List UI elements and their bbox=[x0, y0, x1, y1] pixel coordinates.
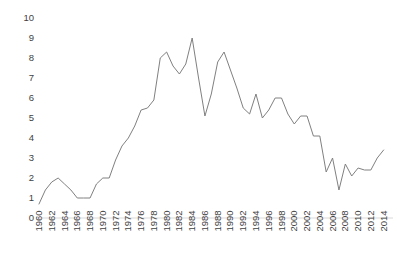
x-tick-label: 1992 bbox=[238, 210, 248, 231]
x-tick-label: 2004 bbox=[314, 210, 324, 231]
x-tick-label: 1978 bbox=[148, 210, 158, 231]
x-tick-label: 1982 bbox=[174, 210, 184, 231]
x-tick-label: 1980 bbox=[161, 210, 171, 231]
x-tick-label: 1966 bbox=[72, 210, 82, 231]
x-tick-label: 1960 bbox=[34, 210, 44, 231]
x-tick-label: 1990 bbox=[225, 210, 235, 231]
x-tick-label: 2008 bbox=[340, 210, 350, 231]
x-tick-label: 1994 bbox=[250, 210, 260, 231]
x-tick-label: 2000 bbox=[289, 210, 299, 231]
x-tick-label: 1968 bbox=[85, 210, 95, 231]
x-tick-label: 1972 bbox=[110, 210, 120, 231]
x-tick-label: 2012 bbox=[365, 210, 375, 231]
x-tick-label: 1974 bbox=[123, 210, 133, 231]
x-tick-label: 1996 bbox=[263, 210, 273, 231]
x-tick-label: 1962 bbox=[46, 210, 56, 231]
x-axis: 1960196219641966196819701972197419761978… bbox=[0, 0, 397, 268]
x-tick-label: 1998 bbox=[276, 210, 286, 231]
x-tick-label: 2002 bbox=[302, 210, 312, 231]
x-tick-label: 2006 bbox=[327, 210, 337, 231]
line-chart: 012345678910 196019621964196619681970197… bbox=[0, 0, 397, 268]
x-tick-label: 1964 bbox=[59, 210, 69, 231]
x-tick-label: 2014 bbox=[378, 210, 388, 231]
x-tick-label: 1984 bbox=[187, 210, 197, 231]
x-tick-label: 1970 bbox=[97, 210, 107, 231]
x-tick-label: 1986 bbox=[199, 210, 209, 231]
x-tick-label: 2010 bbox=[353, 210, 363, 231]
x-tick-label: 1988 bbox=[212, 210, 222, 231]
x-tick-label: 1976 bbox=[136, 210, 146, 231]
